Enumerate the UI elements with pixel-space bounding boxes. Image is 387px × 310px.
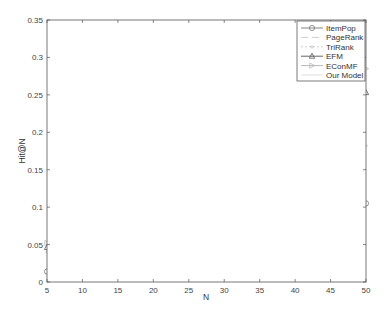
- legend-label: PageRank: [326, 33, 364, 42]
- y-tick-label: 0.15: [27, 166, 43, 175]
- x-axis-label: N: [203, 292, 209, 302]
- legend-label: ItemPop: [326, 24, 356, 33]
- y-tick-label: 0.35: [27, 16, 43, 25]
- x-tick-label: 20: [149, 286, 158, 295]
- x-tick-label: 50: [362, 286, 371, 295]
- legend-label: TriRank: [326, 43, 355, 52]
- x-tick-label: 25: [184, 286, 193, 295]
- x-tick-label: 35: [255, 286, 264, 295]
- legend-label: Our Model: [326, 71, 364, 80]
- x-tick-label: 10: [78, 286, 87, 295]
- x-tick-label: 15: [113, 286, 122, 295]
- x-tick-label: 45: [326, 286, 335, 295]
- y-axis-label: Hit@N: [17, 138, 27, 163]
- y-tick-label: 0.05: [27, 241, 43, 250]
- y-tick-label: 0.25: [27, 91, 43, 100]
- y-tick-label: 0.1: [32, 203, 44, 212]
- x-tick-label: 5: [45, 286, 50, 295]
- legend-label: EFM: [326, 52, 343, 61]
- legend-label: EConMF: [326, 62, 358, 71]
- y-tick-label: 0: [39, 278, 44, 287]
- y-tick-label: 0.2: [32, 128, 44, 137]
- legend: ItemPopPageRankTriRankEFMEConMFOur Model: [297, 21, 365, 81]
- y-tick-label: 0.3: [32, 53, 44, 62]
- x-tick-label: 30: [220, 286, 229, 295]
- x-tick-label: 40: [291, 286, 300, 295]
- chart: 510152025303540455000.050.10.150.20.250.…: [0, 0, 387, 310]
